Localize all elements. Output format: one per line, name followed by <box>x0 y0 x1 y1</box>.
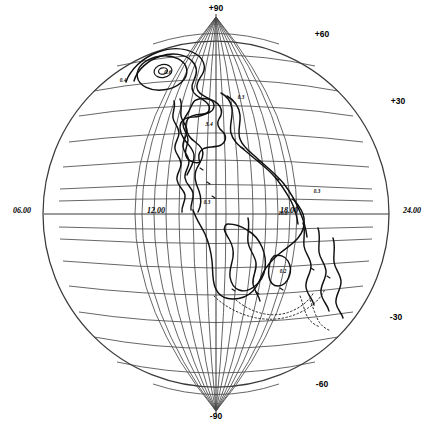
ra-label-24h: 24.00 <box>402 206 421 215</box>
hachure <box>207 182 210 184</box>
graticule <box>43 14 389 414</box>
hachure <box>200 168 203 170</box>
contour-label-10p0: 10.0 <box>278 210 287 216</box>
hachure <box>232 289 235 291</box>
dec-label-s30: -30 <box>390 312 403 322</box>
contour-label-0p3-ne: 0.3 <box>238 94 245 100</box>
dec-label-s60: -60 <box>316 379 329 389</box>
contour-branch-ne <box>221 93 298 224</box>
dec-label-s90: -90 <box>210 411 223 421</box>
contour-set <box>126 49 343 331</box>
dec-label-n90: +90 <box>209 3 224 13</box>
ra-label-12h: 12.00 <box>147 206 165 215</box>
sky-contour-figure: +90 +60 +30 -30 -60 -90 06.00 12.00 18.0… <box>0 0 433 431</box>
contour-label-0p2: 0.2 <box>280 268 287 274</box>
contour-label-0p6: 0.6 <box>164 68 173 75</box>
contour-label-3p4: 3.4 <box>204 120 213 127</box>
contour-east-strand-3 <box>333 238 343 318</box>
dec-label-n30: +30 <box>391 96 406 106</box>
contour-label-0p3-w: 0.3 <box>204 199 211 205</box>
hachure <box>280 288 283 290</box>
contour-0p6-oval <box>135 53 189 94</box>
contour-east-strand-2 <box>318 228 329 311</box>
hachure <box>311 268 314 270</box>
dec-label-n60: +60 <box>315 29 330 39</box>
sky-map-svg: +90 +60 +30 -30 -60 -90 06.00 12.00 18.0… <box>0 0 433 431</box>
contour-label-0p4: 0.4 <box>120 77 127 83</box>
contour-label-0p3-e: 0.3 <box>314 188 321 194</box>
hachure <box>327 276 330 278</box>
hachure <box>212 196 215 198</box>
contour-south-central <box>248 218 260 301</box>
declination-labels: +90 +60 +30 -30 -60 -90 <box>209 3 406 421</box>
ra-label-06h: 06.00 <box>13 206 31 215</box>
contour-east-strand-1 <box>303 223 314 305</box>
